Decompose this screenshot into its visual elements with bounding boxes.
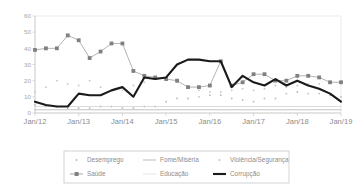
data-point-marker [317,76,321,80]
y-tick-label: 10 [24,93,31,100]
data-point-marker [131,69,135,73]
data-point-marker [339,80,343,84]
y-tick-label: 50 [24,28,31,35]
data-point-marker [264,88,266,90]
data-point-marker [274,85,276,87]
data-point-marker [220,94,222,96]
data-point-marker [34,91,36,93]
data-point-marker [198,89,200,91]
data-point-marker [295,74,299,78]
y-tick-label: 20 [24,77,31,84]
data-point-marker [132,107,134,109]
data-point-marker [285,93,287,95]
data-point-marker [143,81,145,83]
legend-item-label: Corrupção [230,170,260,178]
x-tick-label: Jan/14 [111,117,134,126]
legend-item-label: Saúde [87,170,106,177]
x-tick-label: Jan/18 [286,117,309,126]
data-point-marker [78,107,80,109]
y-axis-tick-labels: 0102030405060 [24,12,31,116]
legend-swatch-marker [218,159,220,161]
data-point-marker [220,91,222,93]
data-point-marker [165,101,167,103]
data-point-marker [252,72,256,76]
data-point-marker [34,104,36,106]
data-point-marker [66,34,70,38]
data-point-marker [176,98,178,100]
data-point-marker [263,72,267,76]
legend-item-label: Desemprego [87,156,124,164]
data-point-marker [89,80,91,82]
y-tick-label: 30 [24,61,31,68]
data-point-marker [78,85,80,87]
data-point-marker [110,42,114,46]
data-point-marker [89,107,91,109]
data-point-marker [306,74,310,78]
data-point-marker [45,86,47,88]
x-tick-label: Jan/15 [155,117,178,126]
data-point-marker [307,93,309,95]
data-point-marker [208,84,212,88]
data-point-marker [242,99,244,101]
legend-item-label: Educação [160,170,189,178]
y-tick-label: 60 [24,12,31,19]
legend-item-label: Violência/Segurança [230,156,289,164]
y-tick-label: 40 [24,45,31,52]
legend-swatch-marker [75,172,79,176]
data-point-marker [121,107,123,109]
x-tick-label: Jan/13 [67,117,90,126]
x-axis-tick-labels: Jan/12Jan/13Jan/14Jan/15Jan/16Jan/17Jan/… [24,113,353,126]
x-tick-label: Jan/19 [330,117,353,126]
data-point-marker [187,98,189,100]
data-point-marker [33,48,37,52]
data-point-marker [284,79,288,83]
data-point-marker [121,89,123,91]
x-tick-label: Jan/17 [242,117,265,126]
data-point-marker [241,80,245,84]
data-point-marker [209,94,211,96]
data-point-marker [100,86,102,88]
data-point-marker [132,85,134,87]
data-point-marker [99,50,103,54]
data-point-marker [121,42,125,46]
data-point-marker [253,101,255,103]
data-point-marker [88,56,92,60]
x-tick-label: Jan/16 [198,117,221,126]
data-point-marker [340,96,342,98]
data-point-marker [296,91,298,93]
data-point-marker [44,46,48,50]
chart-container: 0102030405060 Jan/12Jan/13Jan/14Jan/15Ja… [0,0,353,191]
x-tick-label: Jan/12 [24,117,47,126]
data-point-marker [175,79,179,83]
legend-item-label: Fome/Miséria [160,156,199,163]
data-point-marker [67,83,69,85]
data-point-marker [318,93,320,95]
data-point-marker [264,98,266,100]
data-point-marker [77,38,81,42]
data-point-marker [242,88,244,90]
data-point-marker [328,80,332,84]
data-point-marker [55,46,59,50]
data-point-marker [296,85,298,87]
data-point-marker [274,98,276,100]
data-point-marker [198,96,200,98]
data-point-marker [231,89,233,91]
data-point-marker [231,98,233,100]
data-point-marker [197,85,201,89]
data-point-marker [209,91,211,93]
line-chart: 0102030405060 Jan/12Jan/13Jan/14Jan/15Ja… [0,0,353,191]
legend-swatch-marker [75,159,77,161]
data-point-marker [253,89,255,91]
y-tick-label: 0 [28,109,32,116]
data-point-marker [56,80,58,82]
data-point-marker [318,83,320,85]
data-point-marker [186,85,190,89]
